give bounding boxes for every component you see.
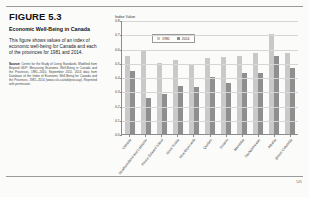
bar (226, 83, 230, 134)
x-tick-label-text: Manitoba (233, 138, 245, 152)
bar (210, 77, 214, 134)
y-tick-label: 0.3 (115, 90, 122, 94)
y-tick-label: 0.6 (115, 48, 122, 52)
x-tick-label: British Columbia (282, 137, 298, 171)
x-tick-label-text: Quebec (202, 138, 213, 150)
legend-swatch (157, 37, 160, 40)
y-tick-label: 0.7 (115, 33, 122, 37)
bar (125, 56, 129, 134)
bar (130, 71, 134, 134)
x-tick-label-text: Canada (121, 138, 132, 150)
x-tick-label-text: Ontario (219, 138, 229, 150)
page-rule-top (6, 6, 303, 7)
bar (189, 64, 193, 134)
y-tick-label: 0.1 (115, 119, 122, 123)
x-tick-label: Ontario (218, 137, 234, 171)
figure-page: 145 FIGURE 5.3 Economic Well-Being in Ca… (0, 0, 309, 197)
figure-source: Source: Centre for the Study of Living S… (9, 62, 97, 86)
bar (194, 87, 198, 134)
bar (274, 56, 278, 134)
y-tick-label: 0.4 (115, 76, 122, 80)
legend-item: 2014 (177, 37, 190, 41)
gridline (122, 78, 298, 79)
legend-item: 1981 (157, 37, 170, 41)
bar (221, 57, 225, 134)
figure-description: This figure shows values of an index of … (9, 38, 97, 57)
plot-area: 19812014 0.80.70.60.50.40.30.20.10.0 (121, 21, 298, 135)
y-tick-label: 0.8 (115, 19, 122, 23)
gridline (122, 64, 298, 65)
figure-title: Economic Well-Being in Canada (9, 26, 97, 33)
page-folio: 145 (296, 180, 302, 184)
gridline (122, 35, 298, 36)
x-tick-label-text: Alberta (267, 138, 277, 149)
bar (253, 53, 257, 134)
bar (237, 56, 241, 134)
bar (146, 98, 150, 134)
x-axis-labels: CanadaNewfoundland and LabradorPrince Ed… (121, 137, 298, 171)
bar (162, 94, 166, 134)
x-tick-label: Quebec (201, 137, 217, 171)
page-rule-bottom (6, 176, 303, 177)
gridline (122, 107, 298, 108)
x-tick-label: Saskatchewan (250, 137, 266, 171)
figure-source-text: Centre for the Study of Living Standards… (9, 62, 97, 86)
bar (285, 53, 289, 134)
bar (258, 73, 262, 134)
legend-swatch (177, 37, 180, 40)
bar (173, 60, 177, 134)
chart: Index Value 19812014 0.80.70.60.50.40.30… (103, 14, 303, 172)
legend-label: 1981 (162, 37, 170, 41)
legend-label: 2014 (182, 37, 190, 41)
x-tick-label: New Brunswick (185, 137, 201, 171)
gridline (122, 21, 298, 22)
y-tick-label: 0.2 (115, 105, 122, 109)
gridline (122, 50, 298, 51)
figure-text-column: FIGURE 5.3 Economic Well-Being in Canada… (9, 11, 97, 86)
gridline (122, 121, 298, 122)
y-tick-label: 0.5 (115, 62, 122, 66)
gridline (122, 92, 298, 93)
bar (205, 58, 209, 134)
figure-number: FIGURE 5.3 (9, 11, 97, 22)
bar (157, 63, 161, 134)
bar (242, 73, 246, 134)
